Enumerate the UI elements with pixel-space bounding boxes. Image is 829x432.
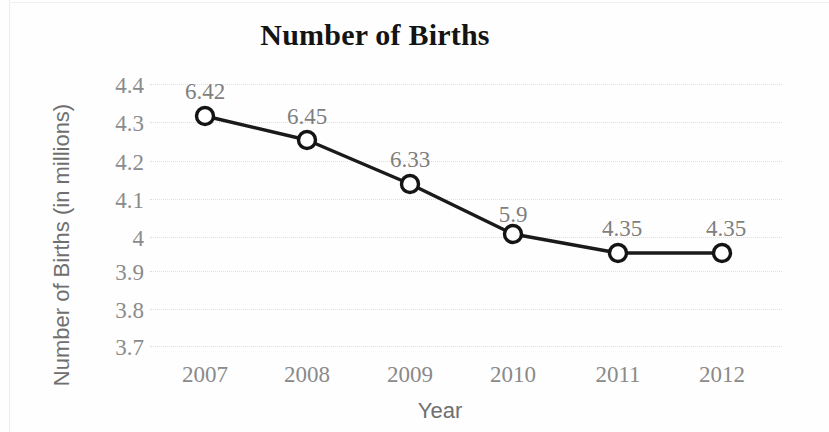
data-point-2011: [610, 245, 627, 262]
y-tick-label-4.4: 4.4: [86, 74, 144, 97]
y-tick-label-4.3: 4.3: [86, 112, 144, 135]
x-tick-label-2012: 2012: [677, 363, 767, 386]
y-tick-label-4.2: 4.2: [86, 151, 144, 174]
data-point-2010: [505, 226, 522, 243]
data-label-2011: 4.35: [582, 217, 662, 240]
data-label-2010: 5.9: [473, 203, 553, 226]
y-axis-title: Number of Births (in millions): [49, 80, 75, 410]
data-label-2012: 4.35: [686, 217, 766, 240]
chart-page: Number of Births 4.44.34.24.143.93.83.7 …: [0, 0, 829, 432]
plot-area: [150, 80, 782, 352]
x-tick-label-2007: 2007: [160, 363, 250, 386]
x-tick-label-2009: 2009: [365, 363, 455, 386]
x-tick-label-2010: 2010: [468, 363, 558, 386]
data-point-2009: [402, 176, 419, 193]
data-point-2007: [197, 108, 214, 125]
y-tick-label-4.1: 4.1: [86, 189, 144, 212]
x-tick-label-2008: 2008: [262, 363, 352, 386]
y-tick-label-3.9: 3.9: [86, 261, 144, 284]
y-tick-label-4: 4: [86, 227, 144, 250]
y-tick-label-3.8: 3.8: [86, 299, 144, 322]
data-point-2012: [714, 245, 731, 262]
x-axis-title: Year: [330, 398, 550, 424]
data-point-2008: [299, 132, 316, 149]
data-label-2008: 6.45: [267, 105, 347, 128]
y-tick-label-3.7: 3.7: [86, 336, 144, 359]
x-tick-label-2011: 2011: [573, 363, 663, 386]
data-label-2009: 6.33: [370, 148, 450, 171]
data-label-2007: 6.42: [165, 80, 245, 103]
